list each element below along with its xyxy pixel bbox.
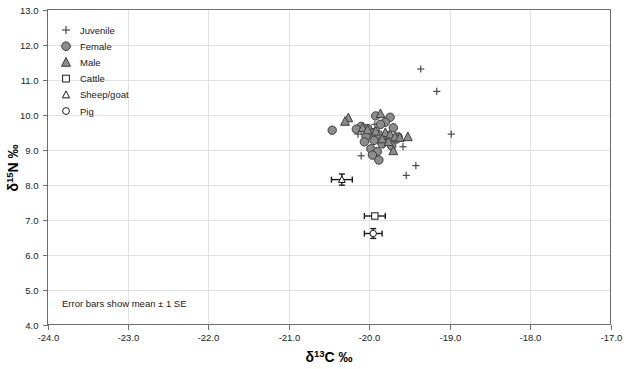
- x-tick-label: -22.0: [198, 332, 220, 343]
- data-point: [375, 156, 383, 164]
- data-point: [370, 136, 378, 144]
- y-tick-label: 11.0: [21, 75, 39, 86]
- svg-text:δ15N ‰: δ15N ‰: [4, 144, 21, 191]
- x-tick-label: -20.0: [359, 332, 381, 343]
- scatter-plot: -24.0-23.0-22.0-21.0-20.0-19.0-18.0-17.0…: [0, 0, 632, 369]
- x-tick-label: -21.0: [279, 332, 301, 343]
- y-tick-label: 4.0: [25, 320, 38, 331]
- y-axis-title: δ15N ‰: [4, 144, 21, 191]
- x-axis-title: δ13C ‰: [305, 348, 352, 365]
- x-axis-title-delta: δ: [305, 349, 314, 365]
- error-bar-note: Error bars show mean ± 1 SE: [62, 298, 187, 309]
- legend-label: Female: [80, 41, 112, 52]
- legend-item-cattle[interactable]: Cattle: [63, 73, 105, 84]
- plot-background: [0, 0, 632, 369]
- legend-label: Cattle: [80, 73, 105, 84]
- y-axis-title-main: N ‰: [5, 144, 21, 172]
- legend-label: Sheep/goat: [80, 89, 129, 100]
- data-point: [376, 120, 384, 128]
- x-tick-label: -17.0: [601, 332, 623, 343]
- data-point: [328, 126, 336, 134]
- chart-container: -24.0-23.0-22.0-21.0-20.0-19.0-18.0-17.0…: [0, 0, 632, 369]
- x-tick-label: -18.0: [520, 332, 542, 343]
- y-tick-label: 7.0: [25, 215, 38, 226]
- y-tick-label: 9.0: [25, 145, 38, 156]
- legend-label: Male: [80, 57, 101, 68]
- x-tick-label: -19.0: [440, 332, 462, 343]
- legend-label: Pig: [80, 106, 94, 117]
- y-tick-label: 10.0: [20, 110, 39, 121]
- y-tick-label: 12.0: [20, 40, 39, 51]
- x-axis-title-main: C ‰: [325, 349, 353, 365]
- legend-marker-circle-open-icon: [63, 108, 70, 115]
- y-tick-label: 6.0: [25, 250, 38, 261]
- svg-text:δ13C ‰: δ13C ‰: [305, 348, 352, 365]
- data-point: [370, 230, 376, 236]
- data-point: [372, 213, 378, 219]
- y-tick-label: 13.0: [20, 5, 39, 16]
- y-tick-label: 8.0: [25, 180, 38, 191]
- x-axis-title-superscript: 13: [314, 348, 325, 359]
- x-tick-label: -23.0: [118, 332, 140, 343]
- y-tick-label: 5.0: [25, 285, 38, 296]
- x-tick-label: -24.0: [38, 332, 60, 343]
- data-point: [360, 138, 368, 146]
- legend-label: Juvenile: [80, 25, 115, 36]
- legend-marker-square-open-icon: [63, 75, 70, 82]
- legend-marker-circle-filled-icon: [62, 42, 71, 51]
- y-axis-title-delta: δ: [5, 183, 21, 192]
